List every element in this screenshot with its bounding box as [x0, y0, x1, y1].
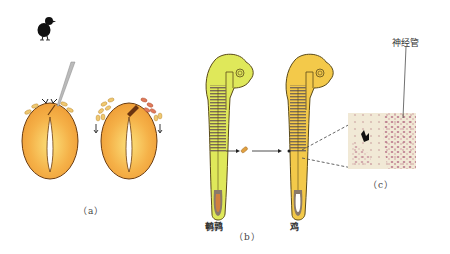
- arrow-icon: [94, 124, 98, 133]
- graft-tissue: [241, 146, 249, 153]
- chick-label: 鸡: [290, 220, 299, 233]
- micrograph: [348, 47, 416, 169]
- diagram-graphics: [0, 0, 450, 254]
- chick-silhouette-icon: [38, 17, 57, 40]
- egg-donor: [22, 99, 78, 179]
- needle-icon: [57, 62, 75, 106]
- arrow-icon: [236, 149, 240, 153]
- caption-c: （c）: [368, 178, 394, 191]
- caption-a: （a）: [78, 204, 104, 217]
- figure: 神经管 （a） 鹌鹑 鸡 （b） （c）: [0, 0, 450, 254]
- egg-host: [94, 97, 162, 179]
- quail-embryo: [206, 54, 253, 220]
- neural-tube-label: 神经管: [392, 36, 419, 49]
- quail-label: 鹌鹑: [205, 220, 223, 233]
- caption-b: （b）: [234, 230, 261, 243]
